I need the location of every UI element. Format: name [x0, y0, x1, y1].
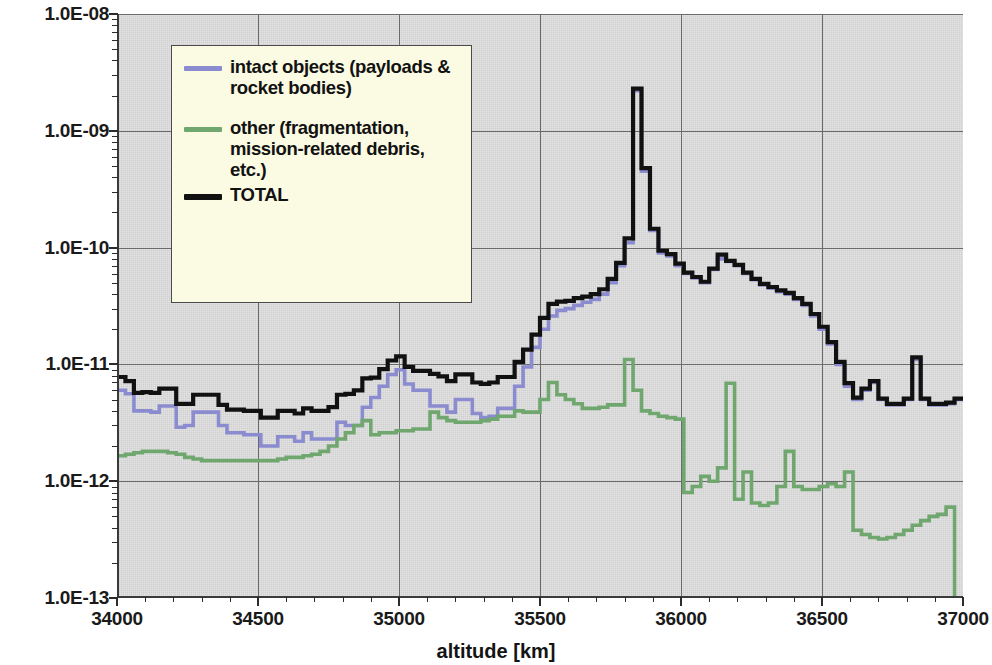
y-tick-minor [112, 411, 118, 412]
legend-swatch-intact-objects [184, 66, 222, 71]
y-tick-minor [112, 487, 118, 488]
y-tick-minor [112, 390, 118, 391]
x-tick-minor [202, 597, 203, 602]
y-tick-major [109, 13, 118, 15]
y-tick-minor [112, 507, 118, 508]
x-tick-minor [371, 597, 372, 602]
y-tick-minor [112, 40, 118, 41]
y-tick-minor [112, 136, 118, 137]
x-tick-label: 34000 [47, 608, 187, 630]
y-tick-minor [112, 400, 118, 401]
y-tick-minor [112, 192, 118, 193]
y-tick-minor [112, 75, 118, 76]
x-tick-minor [878, 597, 879, 602]
y-tick-minor [112, 157, 118, 158]
y-tick-minor [112, 49, 118, 50]
x-tick-minor [230, 597, 231, 602]
y-tick-major [109, 247, 118, 249]
x-tick-minor [596, 597, 597, 602]
y-tick-minor [112, 212, 118, 213]
y-tick-major [109, 130, 118, 132]
x-axis-title: altitude [km] [0, 640, 992, 663]
x-tick-label: 35000 [329, 608, 469, 630]
x-tick-label: 37000 [893, 608, 992, 630]
y-tick-minor [112, 266, 118, 267]
y-tick-minor [112, 60, 118, 61]
y-tick-minor [112, 142, 118, 143]
x-tick-minor [512, 597, 513, 602]
x-tick-major [821, 597, 823, 606]
y-tick-minor [112, 294, 118, 295]
y-tick-minor [112, 516, 118, 517]
y-tick-minor [112, 528, 118, 529]
x-tick-minor [737, 597, 738, 602]
y-tick-minor [112, 493, 118, 494]
y-tick-minor [112, 96, 118, 97]
x-tick-minor [455, 597, 456, 602]
y-tick-major [109, 480, 118, 482]
x-tick-minor [794, 597, 795, 602]
legend-entry-other-debris: other (fragmentation, mission-related de… [182, 118, 461, 180]
y-tick-minor [112, 370, 118, 371]
y-tick-major [109, 363, 118, 365]
x-tick-minor [484, 597, 485, 602]
y-tick-label: 1.0E-11 [0, 353, 109, 375]
x-tick-minor [766, 597, 767, 602]
x-tick-label: 36000 [611, 608, 751, 630]
x-tick-major [257, 597, 259, 606]
y-tick-minor [112, 274, 118, 275]
x-tick-minor [145, 597, 146, 602]
legend-entry-intact-objects: intact objects (payloads & rocket bodies… [182, 57, 461, 98]
y-tick-minor [112, 446, 118, 447]
legend-label-intact-objects: intact objects (payloads & rocket bodies… [230, 57, 461, 98]
x-tick-minor [173, 597, 174, 602]
x-tick-major [962, 597, 964, 606]
y-tick-minor [112, 149, 118, 150]
x-tick-label: 34500 [188, 608, 328, 630]
x-tick-label: 35500 [470, 608, 610, 630]
y-tick-minor [112, 25, 118, 26]
y-tick-label: 1.0E-08 [0, 3, 109, 25]
y-tick-minor [112, 166, 118, 167]
legend-swatch-total [184, 194, 222, 200]
x-tick-minor [568, 597, 569, 602]
x-tick-label: 36500 [752, 608, 892, 630]
x-tick-minor [427, 597, 428, 602]
y-tick-minor [112, 499, 118, 500]
x-tick-minor [709, 597, 710, 602]
y-tick-minor [112, 382, 118, 383]
legend-label-other-debris: other (fragmentation, mission-related de… [230, 118, 461, 180]
y-tick-minor [112, 425, 118, 426]
x-tick-minor [286, 597, 287, 602]
y-tick-minor [112, 542, 118, 543]
x-tick-minor [343, 597, 344, 602]
x-tick-minor [314, 597, 315, 602]
y-tick-label: 1.0E-09 [0, 120, 109, 142]
y-tick-minor [112, 177, 118, 178]
y-tick-minor [112, 309, 118, 310]
x-tick-minor [850, 597, 851, 602]
x-tick-minor [625, 597, 626, 602]
legend-label-total: TOTAL [230, 185, 288, 206]
x-tick-minor [653, 597, 654, 602]
y-tick-label: 1.0E-10 [0, 237, 109, 259]
y-tick-minor [112, 19, 118, 20]
x-tick-major [539, 597, 541, 606]
x-tick-major [116, 597, 118, 606]
y-tick-minor [112, 563, 118, 564]
series-line-other-debris [117, 360, 963, 598]
x-tick-major [398, 597, 400, 606]
legend-spacer [182, 102, 461, 118]
x-tick-minor [935, 597, 936, 602]
y-tick-minor [112, 32, 118, 33]
x-tick-major [680, 597, 682, 606]
y-tick-minor [112, 329, 118, 330]
y-tick-minor [112, 376, 118, 377]
y-tick-minor [112, 253, 118, 254]
y-tick-label: 1.0E-12 [0, 470, 109, 492]
legend-entry-total: TOTAL [182, 185, 461, 206]
chart-figure: 1.0E-131.0E-121.0E-111.0E-101.0E-091.0E-… [0, 0, 992, 665]
y-tick-minor [112, 283, 118, 284]
legend-swatch-other-debris [184, 127, 222, 132]
y-tick-label: 1.0E-13 [0, 587, 109, 609]
